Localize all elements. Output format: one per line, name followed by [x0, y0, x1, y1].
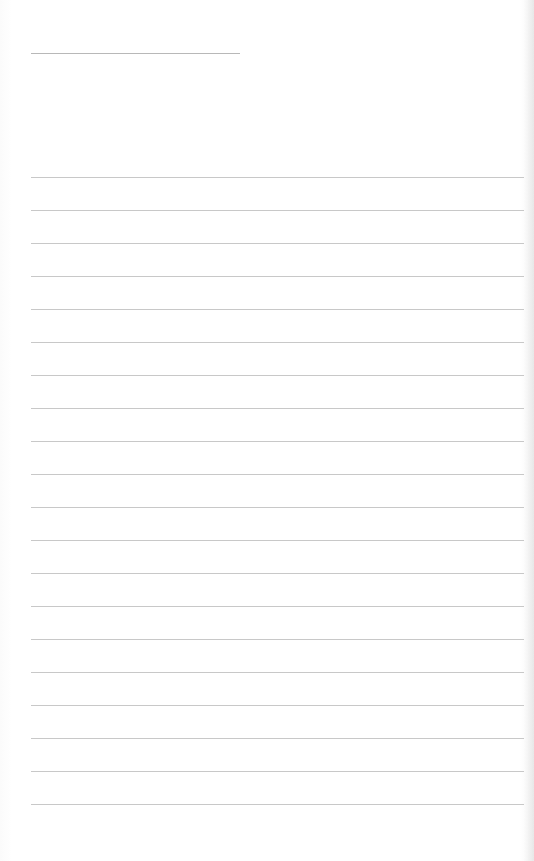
ruled-line [31, 606, 524, 607]
ruled-line [31, 738, 524, 739]
ruled-line [31, 804, 524, 805]
ruled-line [31, 474, 524, 475]
ruled-line [31, 540, 524, 541]
ruled-line [31, 507, 524, 508]
page-edge-shadow [524, 0, 534, 861]
ruled-line [31, 573, 524, 574]
lined-paper-page [0, 0, 534, 861]
ruled-line [31, 441, 524, 442]
ruled-line [31, 375, 524, 376]
ruled-line [31, 276, 524, 277]
ruled-line [31, 177, 524, 178]
ruled-line [31, 639, 524, 640]
ruled-line [31, 408, 524, 409]
ruled-line [31, 672, 524, 673]
ruled-line [31, 705, 524, 706]
ruled-line [31, 342, 524, 343]
ruled-line [31, 243, 524, 244]
title-underline [31, 53, 240, 54]
ruled-line [31, 309, 524, 310]
ruled-line [31, 210, 524, 211]
ruled-line [31, 771, 524, 772]
